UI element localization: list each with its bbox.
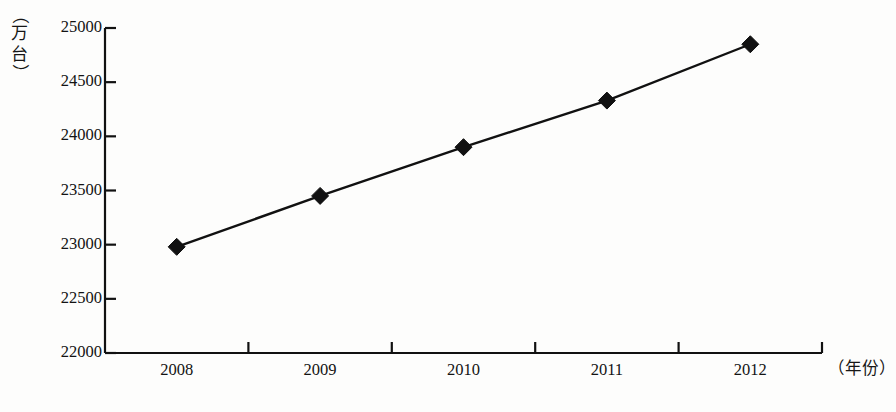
plot-area: [0, 0, 896, 412]
y-axis-ticks: [105, 28, 116, 353]
series-markers: [168, 36, 759, 256]
axis-lines: [105, 28, 822, 353]
line-chart-figure: （ 万 台 ） 25000245002400023500230002250022…: [0, 0, 896, 412]
x-axis-ticks: [248, 342, 678, 353]
